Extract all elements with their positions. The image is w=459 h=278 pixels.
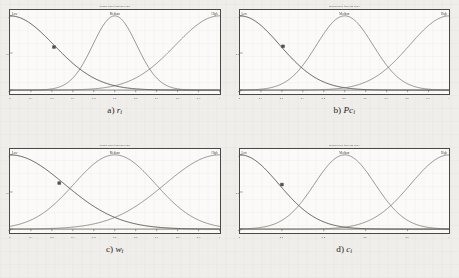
x-tick-label: 0.2 [280, 97, 283, 101]
curve-drag-handle[interactable] [280, 183, 283, 186]
caption-a: a) ri [107, 105, 122, 115]
caption-subscript-b: i [353, 108, 355, 115]
x-tick-label: 0 [239, 236, 240, 240]
x-tick-label: 0.6 [364, 97, 367, 101]
x-tick-label: 0.9 [197, 236, 200, 240]
curve-drag-handle[interactable] [281, 45, 284, 48]
y-tick-label: 0 [238, 229, 239, 232]
y-tick-label: 1 [8, 155, 9, 158]
x-tick-label: 0.8 [176, 97, 179, 101]
figure-panel-d: Membership function plots Low Medium Hig… [230, 139, 459, 278]
figure-panel-c: Membership function plots Low Medium Hig… [0, 139, 230, 278]
plot-curves-c [10, 149, 220, 233]
x-tick-label: 0.2 [50, 236, 53, 240]
x-tick-label: 0.6 [364, 236, 367, 240]
caption-prefix-d: d) [336, 244, 344, 254]
x-tick-label: 0.3 [71, 97, 74, 101]
plot-area-d: Low Medium High 00.51 00.20.40.60.81 [239, 148, 451, 234]
plot-area-c: Low Medium High 00.51 00.10.20.30.40.50.… [9, 148, 221, 234]
y-tick-label: 1 [238, 155, 239, 158]
y-tick-label: 1 [238, 16, 239, 19]
figure-panel-b: Membership function plots Low Medium Hig… [230, 0, 459, 139]
x-tick-label: 0.4 [322, 97, 325, 101]
x-axis-ticks-b: 00.10.20.30.40.50.60.70.80.91 [240, 97, 450, 104]
y-tick-label: 0 [8, 90, 9, 93]
plot-area-b: Low Medium High 00.51 00.10.20.30.40.50.… [239, 9, 451, 95]
y-axis-ticks-a: 00.51 [3, 10, 10, 94]
plot-curves-b [240, 10, 450, 94]
x-tick-label: 0.3 [71, 236, 74, 240]
y-axis-ticks-c: 00.51 [3, 149, 10, 233]
x-tick-label: 0.5 [113, 236, 116, 240]
caption-symbol-b: Pc [343, 105, 353, 115]
x-tick-label: 1 [219, 236, 220, 240]
x-tick-label: 0 [9, 97, 10, 101]
caption-prefix-a: a) [107, 105, 114, 115]
plot-curves-d [240, 149, 450, 233]
x-tick-label: 0.7 [155, 97, 158, 101]
x-axis-ticks-d: 00.20.40.60.81 [240, 236, 450, 243]
y-tick-label: 0 [238, 90, 239, 93]
x-tick-label: 0.5 [343, 97, 346, 101]
figure-panel-a: Membership function plots Low Medium Hig… [0, 0, 230, 139]
x-tick-label: 0.6 [134, 97, 137, 101]
x-tick-label: 0.1 [29, 236, 32, 240]
x-tick-label: 0.4 [92, 236, 95, 240]
caption-subscript-d: i [350, 247, 352, 254]
y-tick-label: 0.5 [6, 192, 9, 195]
caption-prefix-b: b) [334, 105, 342, 115]
x-tick-label: 0.1 [29, 97, 32, 101]
caption-c: c) wi [106, 244, 123, 254]
figure-panel-grid: Membership function plots Low Medium Hig… [0, 0, 459, 278]
y-tick-label: 1 [8, 16, 9, 19]
plot-area-a: Low Medium High 00.51 00.10.20.30.40.50.… [9, 9, 221, 95]
x-tick-label: 0.7 [384, 97, 387, 101]
x-axis-ticks-a: 00.10.20.30.40.50.60.70.80.91 [10, 97, 220, 104]
y-tick-label: 0.5 [236, 53, 239, 56]
x-tick-label: 0 [9, 236, 10, 240]
y-tick-label: 0 [8, 229, 9, 232]
y-axis-ticks-b: 00.51 [232, 10, 239, 94]
y-tick-label: 0.5 [6, 53, 9, 56]
x-tick-label: 0.4 [322, 236, 325, 240]
x-tick-label: 0.4 [92, 97, 95, 101]
x-tick-label: 0.2 [280, 236, 283, 240]
x-tick-label: 0 [239, 97, 240, 101]
x-tick-label: 0.6 [134, 236, 137, 240]
x-axis-ticks-c: 00.10.20.30.40.50.60.70.80.91 [10, 236, 220, 243]
x-tick-label: 0.7 [155, 236, 158, 240]
x-tick-label: 0.8 [176, 236, 179, 240]
x-tick-label: 0.9 [197, 97, 200, 101]
x-tick-label: 0.5 [113, 97, 116, 101]
x-tick-label: 1 [448, 97, 449, 101]
curve-drag-handle[interactable] [58, 182, 61, 185]
x-tick-label: 0.9 [426, 97, 429, 101]
x-tick-label: 1 [219, 97, 220, 101]
plot-curves-a [10, 10, 220, 94]
x-tick-label: 1 [448, 236, 449, 240]
caption-b: b) Pci [334, 105, 356, 115]
curve-drag-handle[interactable] [53, 46, 56, 49]
caption-subscript-a: i [120, 108, 122, 115]
x-tick-label: 0.8 [405, 236, 408, 240]
y-tick-label: 0.5 [236, 192, 239, 195]
caption-prefix-c: c) [106, 244, 113, 254]
x-tick-label: 0.2 [50, 97, 53, 101]
x-tick-label: 0.1 [259, 97, 262, 101]
y-axis-ticks-d: 00.51 [232, 149, 239, 233]
caption-subscript-c: i [122, 247, 124, 254]
x-tick-label: 0.3 [301, 97, 304, 101]
x-tick-label: 0.8 [405, 97, 408, 101]
caption-d: d) ci [336, 244, 352, 254]
